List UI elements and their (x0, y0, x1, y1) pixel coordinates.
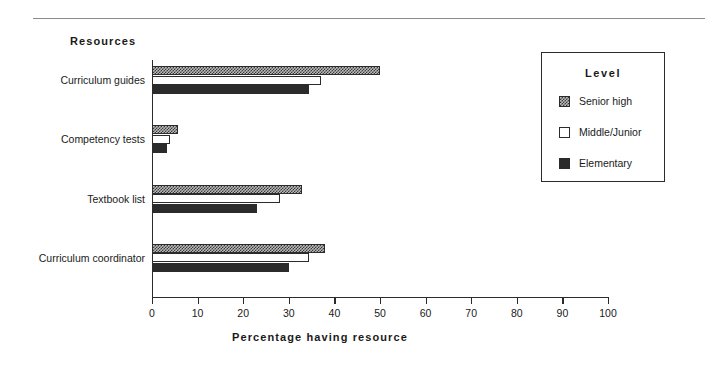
legend-label: Elementary (579, 157, 632, 169)
x-tick-label: 70 (465, 307, 477, 319)
bar (152, 204, 257, 213)
category-label: Textbook list (87, 193, 145, 205)
x-tick-mark (289, 298, 290, 304)
x-tick-label: 30 (283, 307, 295, 319)
legend-entry: Senior high (559, 95, 632, 107)
category-label: Curriculum coordinator (39, 252, 145, 264)
chart-page: Resources Percentage having resource 010… (0, 0, 720, 365)
x-tick-label: 60 (420, 307, 432, 319)
x-tick-label: 90 (557, 307, 569, 319)
x-tick-label: 80 (511, 307, 523, 319)
x-tick-label: 20 (237, 307, 249, 319)
bar (152, 144, 167, 153)
x-tick-mark (608, 298, 609, 304)
legend-label: Middle/Junior (579, 126, 641, 138)
bar (152, 76, 321, 85)
x-tick-mark (471, 298, 472, 304)
x-tick-mark (426, 298, 427, 304)
bar (152, 194, 280, 203)
checkered-swatch (559, 96, 570, 107)
bar (152, 185, 302, 194)
x-tick-label: 10 (192, 307, 204, 319)
empty-swatch (559, 127, 570, 138)
category-label: Competency tests (61, 133, 145, 145)
x-tick-label: 50 (374, 307, 386, 319)
bar (152, 125, 178, 134)
x-tick-mark (562, 298, 563, 304)
bar (152, 135, 170, 144)
solid-swatch (559, 158, 570, 169)
legend: Level Senior highMiddle/JuniorElementary (541, 52, 665, 182)
legend-entry: Elementary (559, 157, 632, 169)
y-axis-title: Resources (70, 35, 136, 47)
bar (152, 263, 289, 272)
x-tick-mark (517, 298, 518, 304)
x-tick-mark (198, 298, 199, 304)
x-tick-mark (152, 298, 153, 304)
legend-entry: Middle/Junior (559, 126, 641, 138)
legend-label: Senior high (579, 95, 632, 107)
x-tick-mark (243, 298, 244, 304)
x-tick-label: 40 (329, 307, 341, 319)
x-tick-label: 0 (149, 307, 155, 319)
x-tick-label: 100 (599, 307, 617, 319)
bar (152, 85, 309, 94)
x-tick-mark (380, 298, 381, 304)
x-axis-title: Percentage having resource (232, 331, 408, 343)
category-label: Curriculum guides (60, 74, 145, 86)
legend-title: Level (542, 67, 664, 79)
x-tick-mark (334, 298, 335, 304)
bar (152, 253, 309, 262)
bar (152, 244, 325, 253)
bar (152, 66, 380, 75)
